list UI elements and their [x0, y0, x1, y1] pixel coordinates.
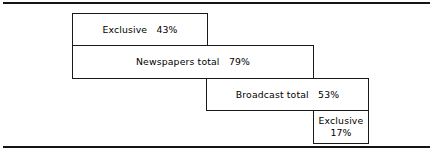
- top-horizontal-rule: [3, 2, 430, 4]
- bar-label-0: Exclusive 43%: [102, 24, 177, 36]
- bar-exclusive-broadcast: Exclusive 17%: [313, 110, 369, 144]
- bottom-horizontal-rule: [3, 146, 430, 148]
- bar-label-2: Broadcast total 53%: [236, 89, 339, 101]
- bar-newspapers-total: Newspapers total 79%: [72, 45, 314, 79]
- bar-broadcast-total: Broadcast total 53%: [206, 78, 369, 111]
- bar-label-3: Exclusive 17%: [319, 115, 364, 140]
- stacked-overlap-bar-figure: Exclusive 43% Newspapers total 79% Broad…: [0, 0, 436, 160]
- bar-exclusive-newspapers: Exclusive 43%: [72, 13, 208, 46]
- bar-label-1: Newspapers total 79%: [136, 56, 250, 68]
